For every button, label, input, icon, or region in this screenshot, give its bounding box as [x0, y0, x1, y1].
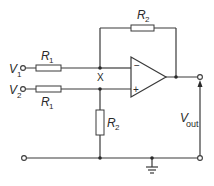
- label-r1-top: R 1: [41, 49, 54, 65]
- label-v1: V 1: [9, 62, 22, 79]
- svg-text:1: 1: [49, 102, 54, 111]
- junction-output: [174, 75, 178, 79]
- terminal-ground-right: [198, 156, 203, 161]
- label-r1-bottom: R 1: [41, 95, 54, 111]
- label-node-x: X: [97, 72, 104, 83]
- junction-ground-r2: [98, 156, 102, 160]
- svg-text:1: 1: [17, 70, 22, 79]
- ground-icon: [146, 167, 158, 173]
- label-vout: V out: [180, 111, 199, 129]
- terminal-ground-left: [22, 156, 27, 161]
- junction-x: [98, 66, 102, 70]
- differential-amplifier-diagram: − + V 1 V 2 R 1 R 1 R 2 R 2 X V out: [0, 0, 214, 186]
- resistor-r2-feedback: [131, 25, 154, 31]
- label-v2: V 2: [9, 83, 22, 100]
- opamp-noninverting-sign: +: [133, 84, 139, 95]
- svg-text:2: 2: [145, 15, 150, 24]
- svg-text:out: out: [186, 119, 199, 129]
- svg-text:2: 2: [17, 91, 22, 100]
- resistor-r1-bottom: [36, 86, 61, 92]
- junction-ground: [150, 156, 154, 160]
- svg-text:1: 1: [49, 56, 54, 65]
- label-r2-ground: R 2: [107, 116, 120, 132]
- junction-plus: [98, 87, 102, 91]
- svg-text:2: 2: [115, 123, 120, 132]
- vout-arrow-head-icon: [198, 80, 203, 87]
- opamp-inverting-sign: −: [134, 60, 140, 71]
- resistor-r2-ground: [96, 110, 104, 135]
- terminal-vout: [198, 75, 203, 80]
- resistor-r1-top: [36, 65, 61, 71]
- label-r2-feedback: R 2: [137, 8, 150, 24]
